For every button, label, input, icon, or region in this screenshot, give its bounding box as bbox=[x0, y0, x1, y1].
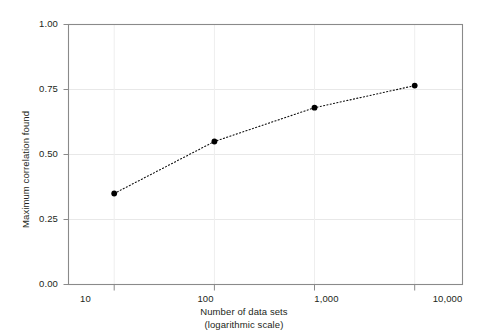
x-tick-label-1000: 1,000 bbox=[296, 293, 357, 304]
x-tick-label-100: 100 bbox=[175, 293, 236, 304]
x-axis-title-line2: (logarithmic scale) bbox=[0, 319, 488, 332]
y-tick-label-0-00: 0.00 bbox=[22, 278, 58, 289]
series-markers bbox=[111, 83, 417, 197]
data-point bbox=[111, 191, 117, 197]
x-tick-label-10000: 10,000 bbox=[417, 293, 478, 304]
series-line bbox=[114, 86, 415, 194]
y-axis-ticks bbox=[64, 25, 69, 285]
chart-plot-area bbox=[0, 0, 488, 336]
x-axis-title-line1: Number of data sets bbox=[200, 306, 287, 317]
y-tick-label-1-00: 1.00 bbox=[22, 18, 58, 29]
data-point bbox=[212, 139, 218, 145]
x-axis-title: Number of data sets (logarithmic scale) bbox=[0, 306, 488, 331]
x-tick-label-10: 10 bbox=[55, 293, 116, 304]
data-point bbox=[312, 105, 318, 111]
grid-lines bbox=[69, 25, 463, 220]
x-axis-ticks bbox=[114, 285, 415, 291]
y-tick-label-0-75: 0.75 bbox=[22, 83, 58, 94]
chart-figure: 1.00 0.75 0.50 0.25 0.00 10 100 1,000 10… bbox=[0, 0, 488, 336]
y-axis-title: Maximum correlation found bbox=[20, 111, 31, 228]
data-point bbox=[412, 83, 418, 89]
